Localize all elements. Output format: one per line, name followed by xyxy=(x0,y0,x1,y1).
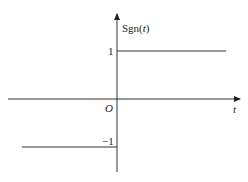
y-axis-label: Sgn(t) xyxy=(122,22,150,35)
ytick-negative: −1 xyxy=(102,135,114,147)
origin-label: O xyxy=(105,102,113,114)
sign-function-chart: Sgn(t) 1 −1 O t xyxy=(0,0,248,182)
ytick-positive: 1 xyxy=(108,45,114,57)
x-axis-label: t xyxy=(233,103,237,115)
